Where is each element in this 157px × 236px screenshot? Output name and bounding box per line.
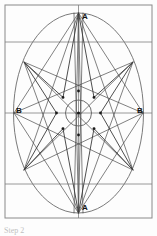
figure-canvas xyxy=(0,0,157,236)
center-node xyxy=(77,111,80,114)
vertex-label-a-bottom: A xyxy=(82,204,88,212)
inner-node xyxy=(55,112,58,115)
vertex-label-b-right: B xyxy=(137,107,143,115)
inner-node xyxy=(62,96,65,99)
inner-node xyxy=(62,127,65,130)
vertex-label-a-top: A xyxy=(82,13,88,21)
chord-abot-to-diag-tl xyxy=(24,62,79,213)
chord-abot-to-bleft xyxy=(14,113,79,213)
figure-caption: Step 2 xyxy=(4,226,154,236)
geometric-figure: A A B B Step 2 xyxy=(0,0,157,236)
inner-node xyxy=(77,134,80,137)
chord-atop-to-diag-bl xyxy=(24,13,79,170)
vertex-label-b-left: B xyxy=(16,107,22,115)
inner-node xyxy=(93,127,96,130)
chord-atop-to-bleft xyxy=(14,13,79,113)
inner-node xyxy=(77,90,80,93)
chord-atop-to-bright xyxy=(79,13,144,113)
chord-atop-to-diag-br xyxy=(79,13,134,170)
inner-node xyxy=(99,112,102,115)
chord-abot-to-diag-tr xyxy=(79,62,134,213)
inner-node xyxy=(93,96,96,99)
chord-abot-to-bright xyxy=(79,113,144,213)
